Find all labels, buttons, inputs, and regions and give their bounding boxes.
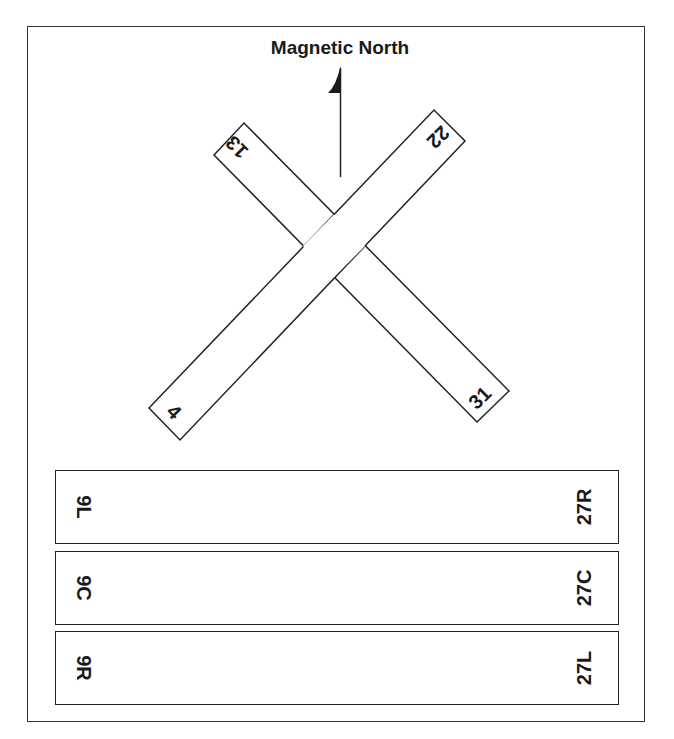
runway-label-9c: 9C xyxy=(74,575,94,601)
runway-label-27l: 27L xyxy=(574,651,594,685)
runway-label-9l: 9L xyxy=(74,495,94,518)
runway-9l-27r: 9L 27R xyxy=(55,470,619,544)
north-arrow-icon xyxy=(328,66,341,177)
runway-13-31 xyxy=(214,123,509,422)
runway-label-27r: 27R xyxy=(574,489,594,526)
runway-label-9r: 9R xyxy=(74,655,94,681)
runway-9r-27l: 9R 27L xyxy=(55,631,619,705)
runway-4-22 xyxy=(149,110,465,440)
runway-diagram: 13 31 22 4 xyxy=(0,0,674,739)
runway-label-27c: 27C xyxy=(574,570,594,607)
runway-9c-27c: 9C 27C xyxy=(55,551,619,625)
